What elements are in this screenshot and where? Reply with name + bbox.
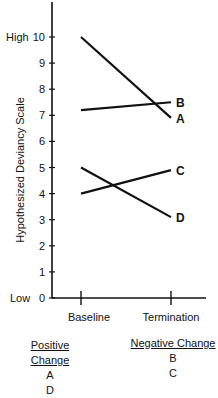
y-tick-label: 8 — [39, 83, 45, 95]
series-line — [81, 168, 171, 218]
legend-heading: Negative Change — [128, 336, 218, 351]
series-d: D — [81, 168, 185, 226]
x-label-baseline: Baseline — [68, 311, 110, 323]
series-label: B — [176, 96, 185, 110]
x-label-termination: Termination — [143, 311, 200, 323]
y-axis-title: Hypothesized Deviancy Scale — [14, 97, 26, 243]
series-c: C — [81, 164, 185, 193]
y-tick-label: 6 — [39, 135, 45, 147]
y-tick-label: 5 — [39, 162, 45, 174]
y-tick-label: 3 — [39, 214, 45, 226]
legend-negative-change: Negative Change B C — [128, 336, 218, 381]
y-tick-label: 2 — [39, 240, 45, 252]
y-tick-label: 0 — [39, 292, 45, 304]
legend-item: C — [128, 366, 218, 381]
axes — [52, 2, 206, 298]
y-low-label: Low — [10, 292, 30, 304]
series-line — [81, 170, 171, 193]
series-label: A — [176, 112, 185, 126]
legend-item: A — [10, 368, 90, 383]
y-high-label: High — [6, 31, 29, 43]
legend-item: D — [10, 383, 90, 398]
series-label: D — [176, 211, 185, 225]
y-tick-label: 7 — [39, 109, 45, 121]
y-tick-label: 4 — [39, 188, 45, 200]
legend-item: B — [128, 351, 218, 366]
data-series: ABCD — [81, 37, 185, 225]
y-tick-label: 9 — [39, 57, 45, 69]
series-a: A — [81, 37, 185, 126]
legend-positive-change: Positive Change A D — [10, 338, 90, 398]
y-tick-label: 10 — [33, 31, 45, 43]
series-b: B — [81, 96, 185, 110]
legend-heading: Positive Change — [10, 338, 90, 368]
y-tick-label: 1 — [39, 266, 45, 278]
series-label: C — [176, 164, 185, 178]
